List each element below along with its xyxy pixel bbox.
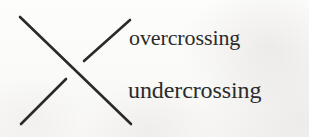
undercrossing-strand-upper-segment (84, 20, 130, 61)
undercrossing-strand-lower-segment (21, 79, 66, 124)
undercrossing-label: undercrossing (128, 78, 261, 102)
crossing-illustration (0, 0, 309, 137)
overcrossing-label: overcrossing (129, 27, 240, 49)
crossing-diagram-figure: overcrossing undercrossing (0, 0, 309, 137)
